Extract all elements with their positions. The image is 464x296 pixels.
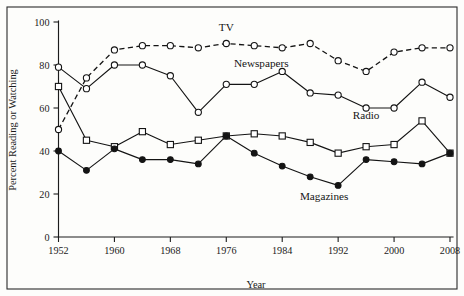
marker-radio [307, 139, 313, 145]
marker-newspapers [195, 109, 201, 115]
marker-newspapers [335, 92, 341, 98]
marker-newspapers [167, 73, 173, 79]
marker-newspapers [223, 81, 229, 87]
marker-tv [279, 45, 285, 51]
series-line-newspapers [59, 65, 451, 112]
marker-magazines [112, 146, 118, 152]
marker-magazines [307, 174, 313, 180]
x-tick-label: 1952 [48, 245, 68, 256]
marker-radio [167, 141, 173, 147]
marker-magazines [56, 148, 62, 154]
y-tick-label: 0 [44, 232, 49, 243]
marker-tv [363, 68, 369, 74]
y-tick-label: 80 [39, 60, 49, 71]
marker-radio [83, 137, 89, 143]
marker-radio [55, 83, 61, 89]
x-tick-label: 1968 [160, 245, 180, 256]
marker-tv [83, 75, 89, 81]
marker-magazines [447, 150, 453, 156]
x-tick-label: 1960 [104, 245, 124, 256]
y-axis-title: Percent Reading or Watching [7, 69, 18, 191]
y-tick-label: 20 [39, 189, 49, 200]
marker-tv [223, 40, 229, 46]
x-tick-label: 1992 [328, 245, 348, 256]
marker-tv [447, 45, 453, 51]
marker-magazines [251, 150, 257, 156]
marker-newspapers [307, 90, 313, 96]
marker-tv [419, 45, 425, 51]
x-tick-label: 1984 [272, 245, 292, 256]
marker-tv [139, 43, 145, 49]
series-label-magazines: Magazines [300, 190, 348, 202]
marker-magazines [419, 161, 425, 167]
line-chart-canvas: 0204060801001952196019681976198419922000… [0, 0, 464, 296]
marker-magazines [84, 167, 90, 173]
series-annotations: TVNewspapersRadioMagazines [219, 21, 380, 203]
marker-magazines [391, 159, 397, 165]
marker-radio [251, 131, 257, 137]
x-tick-label: 2000 [384, 245, 404, 256]
marker-magazines [223, 133, 229, 139]
marker-magazines [167, 157, 173, 163]
marker-radio [391, 141, 397, 147]
y-tick-label: 100 [34, 17, 49, 28]
marker-newspapers [251, 81, 257, 87]
marker-tv [335, 58, 341, 64]
marker-radio [335, 150, 341, 156]
marker-radio [139, 129, 145, 135]
marker-magazines [363, 157, 369, 163]
marker-tv [167, 43, 173, 49]
marker-magazines [335, 183, 341, 189]
marker-radio [195, 137, 201, 143]
marker-newspapers [111, 62, 117, 68]
marker-newspapers [83, 86, 89, 92]
marker-tv [111, 47, 117, 53]
chart-figure: 0204060801001952196019681976198419922000… [0, 0, 464, 296]
series-label-radio: Radio [353, 109, 380, 121]
marker-tv [195, 45, 201, 51]
y-tick-label: 60 [39, 103, 49, 114]
marker-magazines [195, 161, 201, 167]
marker-tv [55, 126, 61, 132]
x-tick-label: 1976 [216, 245, 236, 256]
y-tick-label: 40 [39, 146, 49, 157]
marker-radio [363, 144, 369, 150]
series-label-newspapers: Newspapers [234, 57, 289, 69]
marker-magazines [279, 163, 285, 169]
marker-tv [391, 49, 397, 55]
marker-radio [279, 133, 285, 139]
marker-radio [419, 118, 425, 124]
marker-newspapers [55, 64, 61, 70]
series-label-tv: TV [219, 21, 234, 33]
marker-tv [251, 43, 257, 49]
x-tick-label: 2008 [440, 245, 460, 256]
marker-newspapers [279, 68, 285, 74]
marker-magazines [139, 157, 145, 163]
marker-tv [307, 40, 313, 46]
marker-newspapers [447, 94, 453, 100]
marker-newspapers [419, 79, 425, 85]
marker-newspapers [391, 105, 397, 111]
x-axis-title: Year [246, 279, 266, 290]
marker-newspapers [139, 62, 145, 68]
